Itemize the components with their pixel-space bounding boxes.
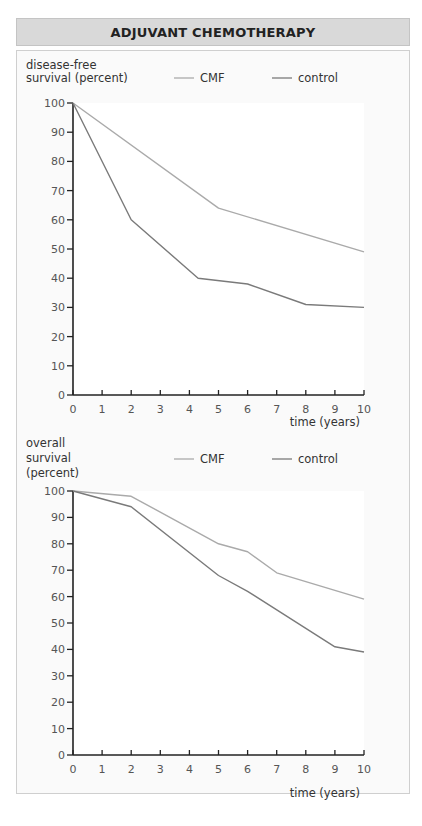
x-tick-label: 6	[244, 403, 251, 416]
x-tick-label: 4	[186, 403, 193, 416]
y-tick-label: 30	[51, 301, 65, 314]
chart2-plot: 0102030405060708090100012345678910	[44, 485, 371, 776]
x-tick-label: 5	[215, 763, 222, 776]
y-tick-label: 30	[51, 670, 65, 683]
y-tick-label: 0	[58, 749, 65, 762]
chart2-ylabel-line1: overall	[26, 436, 65, 450]
chart2-legend: CMF control	[174, 452, 338, 466]
y-tick-label: 100	[44, 97, 65, 110]
legend-control-label: control	[298, 452, 338, 466]
chart1-ylabel: disease-free survival (percent)	[26, 58, 128, 85]
y-tick-label: 10	[51, 723, 65, 736]
x-tick-label: 3	[157, 763, 164, 776]
y-tick-label: 20	[51, 331, 65, 344]
legend-cmf-label: CMF	[200, 452, 225, 466]
x-tick-label: 9	[331, 763, 338, 776]
y-tick-label: 90	[51, 511, 65, 524]
chart2-ylabel-line3: (percent)	[26, 466, 79, 480]
x-tick-label: 4	[186, 763, 193, 776]
y-tick-label: 70	[51, 564, 65, 577]
chart1-legend: CMF control	[174, 71, 338, 85]
plot-area	[73, 103, 364, 395]
chart1-ylabel-line1: disease-free	[26, 58, 97, 72]
y-tick-label: 50	[51, 243, 65, 256]
charts-canvas: disease-free survival (percent) CMF cont…	[0, 0, 422, 826]
x-tick-label: 8	[302, 763, 309, 776]
x-tick-label: 10	[357, 763, 371, 776]
x-tick-label: 1	[99, 763, 106, 776]
y-tick-label: 90	[51, 126, 65, 139]
x-tick-label: 7	[273, 763, 280, 776]
y-tick-label: 40	[51, 272, 65, 285]
x-tick-label: 0	[70, 763, 77, 776]
y-tick-label: 10	[51, 360, 65, 373]
x-tick-label: 1	[99, 403, 106, 416]
plot-area	[73, 491, 364, 755]
chart2-ylabel-line2: survival	[26, 451, 71, 465]
y-tick-label: 60	[51, 214, 65, 227]
chart2-xlabel: time (years)	[290, 786, 360, 800]
y-tick-label: 70	[51, 185, 65, 198]
x-tick-label: 2	[128, 763, 135, 776]
x-tick-label: 2	[128, 403, 135, 416]
legend-cmf-label: CMF	[200, 71, 225, 85]
chart1-ylabel-line2: survival (percent)	[26, 71, 128, 85]
chart1-plot: 0102030405060708090100012345678910	[44, 97, 371, 416]
y-tick-label: 80	[51, 155, 65, 168]
y-tick-label: 20	[51, 696, 65, 709]
y-tick-label: 0	[58, 389, 65, 402]
x-tick-label: 3	[157, 403, 164, 416]
chart2-ylabel: overall survival (percent)	[26, 436, 79, 480]
x-tick-label: 0	[70, 403, 77, 416]
y-tick-label: 80	[51, 538, 65, 551]
y-tick-label: 60	[51, 591, 65, 604]
y-tick-label: 100	[44, 485, 65, 498]
y-tick-label: 40	[51, 643, 65, 656]
x-tick-label: 5	[215, 403, 222, 416]
chart1-xlabel: time (years)	[290, 415, 360, 429]
y-tick-label: 50	[51, 617, 65, 630]
legend-control-label: control	[298, 71, 338, 85]
x-tick-label: 7	[273, 403, 280, 416]
x-tick-label: 6	[244, 763, 251, 776]
